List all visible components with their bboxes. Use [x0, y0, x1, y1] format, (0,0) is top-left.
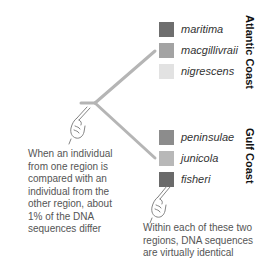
- note-between-regions: When an individual from one region is co…: [28, 148, 123, 236]
- region-label-gulf-coast: Gulf Coast: [244, 128, 256, 184]
- swatch-maritima: [159, 22, 174, 37]
- region-label-atlantic-coast: Atlantic Coast: [244, 15, 256, 89]
- atlantic-branch: [95, 51, 155, 103]
- taxon-label-macgillivraii: macgillivraii: [181, 43, 238, 58]
- swatch-junicola: [159, 151, 174, 166]
- taxon-label-maritima: maritima: [181, 22, 223, 37]
- pointing-hand-icon: [148, 185, 174, 225]
- note-within-regions: Within each of these two regions, DNA se…: [143, 222, 268, 260]
- swatch-peninsulae: [159, 130, 174, 145]
- taxon-label-fisheri: fisheri: [181, 172, 210, 187]
- pointing-hand-icon: [66, 106, 92, 146]
- taxon-label-nigrescens: nigrescens: [181, 64, 234, 79]
- taxon-label-peninsulae: peninsulae: [181, 130, 234, 145]
- swatch-macgillivraii: [159, 43, 174, 58]
- swatch-nigrescens: [159, 64, 174, 79]
- taxon-label-junicola: junicola: [181, 151, 218, 166]
